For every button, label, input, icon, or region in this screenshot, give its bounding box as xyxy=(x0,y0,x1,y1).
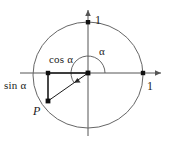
unit-x-marker xyxy=(141,71,145,75)
unit-y-marker xyxy=(86,20,90,24)
y-axis-unit-label: 1 xyxy=(95,14,101,26)
point-p-label: P xyxy=(33,105,41,117)
origin-marker xyxy=(86,71,91,76)
radius-to-point-segment xyxy=(48,73,88,101)
point-p-marker xyxy=(46,99,51,104)
x-axis-unit-label: 1 xyxy=(147,80,153,92)
sine-label: sin α xyxy=(4,80,26,91)
unit-circle-drawing xyxy=(0,0,171,145)
cosine-label: cos α xyxy=(49,54,73,65)
unit-circle-figure: 1 1 cos α sin α α P xyxy=(0,0,171,145)
foot-of-perpendicular-marker xyxy=(46,71,50,75)
x-axis xyxy=(20,70,161,76)
angle-alpha-label: α xyxy=(99,46,105,57)
